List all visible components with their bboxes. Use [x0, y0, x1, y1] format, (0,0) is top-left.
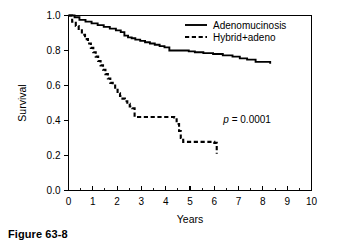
- legend-label-1: Adenomucinosis: [213, 20, 286, 31]
- x-axis-tick-label: 6: [212, 196, 218, 207]
- y-axis-tick-label: 0.0: [47, 185, 61, 196]
- y-axis-tick-label: 0.6: [47, 80, 61, 91]
- x-axis-tick-label: 7: [236, 196, 242, 207]
- x-axis-tick-label: 10: [306, 196, 318, 207]
- survival-chart: 0.00.20.40.60.81.0012345678910YearsSurvi…: [0, 0, 337, 247]
- figure-caption: Figure 63-8: [8, 228, 68, 240]
- x-axis-tick-label: 0: [66, 196, 72, 207]
- x-axis-tick-label: 1: [90, 196, 96, 207]
- x-axis-tick-label: 8: [260, 196, 266, 207]
- p-value-annotation: p = 0.0001: [222, 114, 271, 125]
- y-axis-title: Survival: [16, 84, 28, 121]
- y-axis-tick-label: 0.4: [47, 115, 61, 126]
- figure-container: 0.00.20.40.60.81.0012345678910YearsSurvi…: [0, 0, 337, 247]
- x-axis-tick-label: 3: [139, 196, 145, 207]
- x-axis-tick-label: 9: [284, 196, 290, 207]
- y-axis-tick-label: 1.0: [47, 10, 61, 21]
- legend-label-2: Hybrid+adeno: [213, 32, 276, 43]
- x-axis-tick-label: 2: [114, 196, 120, 207]
- x-axis-tick-label: 5: [187, 196, 193, 207]
- x-axis-title: Years: [177, 213, 203, 225]
- y-axis-tick-label: 0.2: [47, 150, 61, 161]
- y-axis-tick-label: 0.8: [47, 45, 61, 56]
- x-axis-tick-label: 4: [163, 196, 169, 207]
